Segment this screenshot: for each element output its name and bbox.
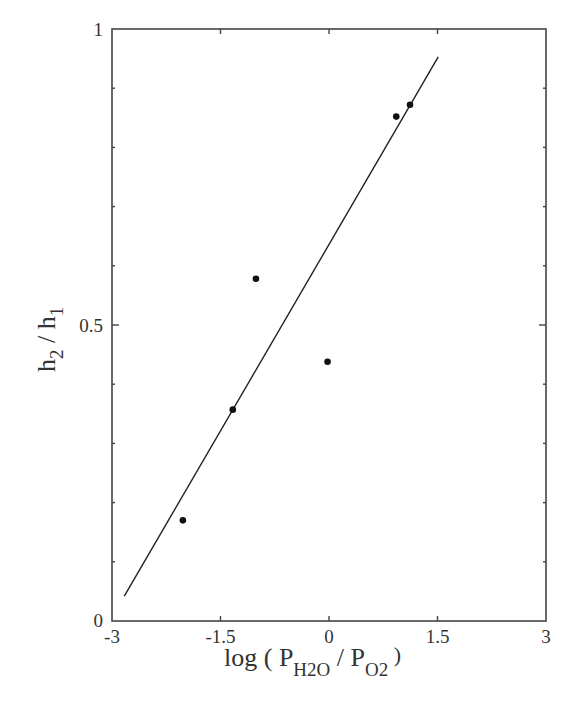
x-tick-label: 1.5 xyxy=(426,626,450,647)
y-tick-label: 1 xyxy=(94,19,104,40)
fit-line xyxy=(124,57,438,596)
plot-border xyxy=(112,29,546,621)
data-point-marker xyxy=(393,113,400,120)
data-point-marker xyxy=(180,517,187,524)
x-axis-title: log ( PH2O / PO2 ) xyxy=(224,642,401,680)
y-tick-label: 0.5 xyxy=(79,315,103,336)
plot-frame xyxy=(112,29,546,621)
fit-line-segment xyxy=(124,57,438,596)
x-tick-label: 3 xyxy=(541,626,551,647)
y-tick-label: 0 xyxy=(94,610,104,631)
data-point-marker xyxy=(253,276,260,283)
y-axis-title: h2 / h1 xyxy=(32,307,67,372)
x-tick-label: -3 xyxy=(104,626,120,647)
data-point-marker xyxy=(407,101,414,108)
axis-ticks xyxy=(112,29,546,621)
data-points xyxy=(180,101,414,523)
data-point-marker xyxy=(229,406,236,413)
scatter-chart: -3-1.501.5300.51 log ( PH2O / PO2 ) h2 /… xyxy=(0,0,568,713)
data-point-marker xyxy=(324,358,331,365)
